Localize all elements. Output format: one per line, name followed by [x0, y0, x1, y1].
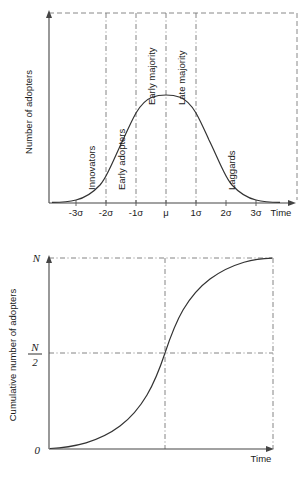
segment-label-late-majority: Late majority — [176, 50, 187, 105]
segment-label-innovators: Innovators — [86, 145, 97, 190]
cum-y-axis-label: Cumulative number of adopters — [7, 288, 18, 421]
bell-y-axis-label: Number of adopters — [23, 70, 34, 154]
cum-ytick-N-half-numerator: N — [30, 341, 39, 353]
segment-label-early-adopters: Early adopters — [116, 128, 127, 190]
cumulative-curve-chart: Cumulative number of adopters N N 2 0 Ti… — [7, 252, 274, 464]
cum-x-axis-label: Time — [251, 453, 272, 464]
segment-label-laggards: Laggards — [226, 150, 237, 190]
cum-ytick-N: N — [32, 252, 41, 264]
bell-xticklabel-6: 3σ — [250, 207, 261, 218]
figure-svg: Number of adopters -3σ -2σ -1σ μ 1σ 2σ 3… — [0, 0, 302, 483]
adoption-curves-figure: Number of adopters -3σ -2σ -1σ μ 1σ 2σ 3… — [0, 0, 302, 483]
cum-ytick-N-half: N 2 — [28, 341, 42, 368]
bell-x-axis-label: Time — [271, 207, 292, 218]
bell-xticklabel-2: -1σ — [129, 207, 143, 218]
bell-xticklabel-1: -2σ — [99, 207, 113, 218]
cum-y-axis-arrow — [46, 255, 52, 263]
bell-x-axis-arrow — [288, 200, 296, 206]
bell-xticklabel-0: -3σ — [69, 207, 83, 218]
segment-label-early-majority: Early majority — [146, 47, 157, 105]
bell-xticklabel-3: μ — [163, 207, 168, 218]
bell-curve-chart: Number of adopters -3σ -2σ -1σ μ 1σ 2σ 3… — [23, 10, 297, 218]
cum-ytick-origin: 0 — [35, 444, 41, 456]
bell-y-axis-arrow — [46, 10, 52, 18]
bell-xticklabel-4: 1σ — [190, 207, 201, 218]
cum-ytick-N-half-denominator: 2 — [32, 356, 38, 368]
bell-xticklabel-5: 2σ — [220, 207, 231, 218]
